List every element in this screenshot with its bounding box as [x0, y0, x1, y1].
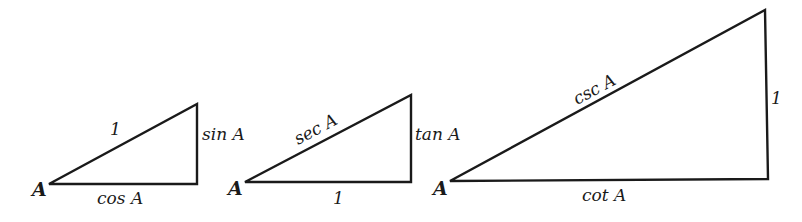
hypotenuse-label: 1 [110, 119, 121, 139]
vertex-label: A [226, 177, 243, 199]
opposite-label: 1 [771, 88, 782, 108]
triangle-unit-opposite: A csc A 1 cot A [431, 10, 782, 205]
triangle-shape [245, 95, 411, 182]
vertex-label: A [431, 177, 448, 199]
adjacent-label: cot A [582, 185, 626, 205]
triangle-unit-hypotenuse: A 1 sin A cos A [30, 104, 245, 208]
opposite-label: tan A [415, 124, 461, 144]
adjacent-label: cos A [97, 188, 143, 208]
trig-triangles-diagram: A 1 sin A cos A A sec A tan A 1 A csc A … [0, 0, 802, 222]
opposite-label: sin A [202, 124, 245, 144]
triangle-shape [49, 104, 197, 184]
hypotenuse-label: sec A [290, 109, 340, 148]
triangle-shape [450, 10, 768, 181]
adjacent-label: 1 [333, 188, 344, 208]
triangle-unit-adjacent: A sec A tan A 1 [226, 95, 461, 208]
vertex-label: A [30, 178, 47, 200]
